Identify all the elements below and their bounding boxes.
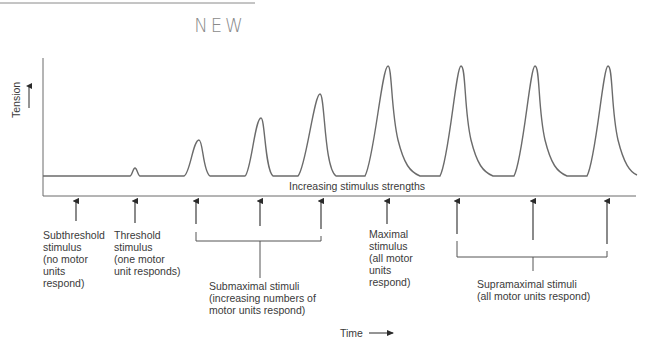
time-label: Time	[340, 327, 363, 339]
supramaximal-group-label: Supramaximal stimuli (all motor units re…	[477, 278, 590, 302]
maximal-label: Maximal stimulus (all motor units respon…	[369, 228, 413, 288]
submaximal-bracket	[196, 232, 321, 278]
new-stamp: NEW	[194, 14, 245, 36]
supramaximal-bracket	[457, 241, 607, 271]
threshold-label: Threshold stimulus (one motor unit respo…	[114, 229, 181, 277]
y-axis-label: Tension	[10, 58, 22, 118]
submaximal-group-label: Submaximal stimuli (increasing numbers o…	[209, 280, 316, 316]
x-axis-caption: Increasing stimulus strengths	[289, 180, 425, 192]
subthreshold-label: Subthreshold stimulus (no motor units re…	[43, 229, 105, 289]
motor-unit-recruitment-diagram: NEW Tension Increasing stimulus strength…	[0, 0, 656, 347]
tension-trace	[43, 66, 637, 176]
